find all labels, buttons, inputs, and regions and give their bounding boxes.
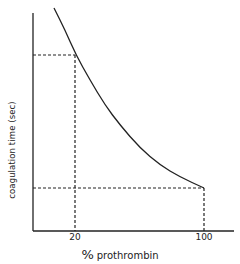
coagulation-curve — [54, 8, 204, 188]
y-axis-label: coagulation time (sec) — [7, 101, 17, 199]
x-tick-20: 20 — [69, 232, 80, 242]
x-axis-label-percent: % — [81, 247, 93, 262]
dashed-guides — [33, 55, 204, 231]
chart-canvas — [0, 0, 240, 264]
x-axis-label: %prothrombin — [81, 247, 158, 262]
x-axis-label-word: prothrombin — [97, 250, 159, 261]
x-tick-100: 100 — [195, 232, 212, 242]
